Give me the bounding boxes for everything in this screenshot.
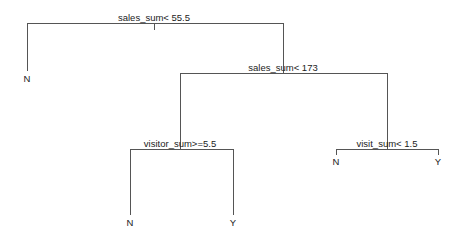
tree-node-visit: visit_sum< 1.5 <box>336 138 438 155</box>
tree-node-sales-173: sales_sum< 173 <box>180 62 387 149</box>
tree-node-visitor: visitor_sum>=5.5 <box>130 138 233 215</box>
split-label-sales-173: sales_sum< 173 <box>248 62 317 73</box>
split-label-visitor: visitor_sum>=5.5 <box>144 138 216 149</box>
split-label-visit: visit_sum< 1.5 <box>357 138 418 149</box>
leaf-label: Y <box>230 217 237 228</box>
leaf-label: N <box>127 217 134 228</box>
split-label-root: sales_sum< 55.5 <box>118 12 190 23</box>
leaf-label: N <box>333 156 340 167</box>
tree-node-root: sales_sum< 55.5 <box>27 12 283 73</box>
leaf-label: Y <box>435 156 442 167</box>
leaf-label: N <box>24 73 31 84</box>
decision-tree-diagram: sales_sum< 55.5 N sales_sum< 173 visitor… <box>0 0 464 242</box>
